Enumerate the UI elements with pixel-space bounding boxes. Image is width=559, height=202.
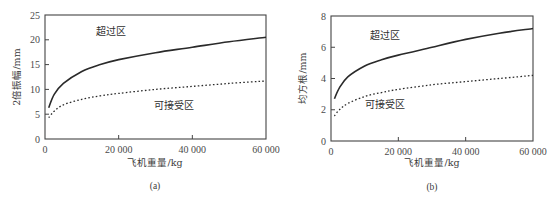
exceed-zone-label: 超过区: [370, 29, 400, 41]
y-tick-label: 5: [35, 109, 40, 120]
x-axis-label: 飞机重量/kg: [127, 157, 182, 168]
y-tick-label: 8: [321, 11, 326, 22]
caption: (a): [150, 181, 161, 192]
x-tick-label: 60 000: [252, 144, 280, 155]
y-axis-label: 均方根/mm: [297, 52, 308, 103]
y-tick-label: 0: [35, 134, 40, 145]
x-tick-label: 40 000: [179, 144, 207, 155]
solid-line-series: [49, 37, 266, 108]
x-tick-label: 60 000: [519, 146, 547, 157]
x-axis-label: 飞机重量/kg: [404, 157, 459, 168]
plot-area: 0510152025020 00040 00060 000超过区可接受区: [30, 10, 280, 156]
y-tick-label: 6: [321, 42, 326, 53]
y-tick-label: 15: [30, 59, 40, 70]
exceed-zone-label: 超过区: [96, 25, 126, 37]
acceptable-zone-label: 可接受区: [154, 99, 194, 111]
caption: (b): [426, 182, 437, 193]
x-tick-label: 0: [43, 144, 48, 155]
y-tick-label: 10: [30, 84, 40, 95]
acceptable-zone-label: 可接受区: [365, 98, 405, 110]
plot-frame: [45, 15, 266, 139]
chart-a: 2倍振幅/mm 飞机重量/kg (a) 0510152025020 00040 …: [11, 10, 280, 193]
x-tick-label: 0: [329, 146, 334, 157]
y-tick-label: 2: [321, 104, 326, 115]
x-tick-label: 40 000: [452, 146, 480, 157]
y-tick-label: 4: [321, 73, 326, 84]
y-tick-label: 20: [30, 34, 40, 45]
solid-line-series: [334, 29, 533, 99]
figure-canvas: 2倍振幅/mm 飞机重量/kg (a) 0510152025020 00040 …: [0, 0, 559, 202]
y-tick-label: 25: [30, 10, 40, 21]
x-tick-label: 20 000: [385, 146, 413, 157]
chart-b: 均方根/mm 飞机重量/kg (b) 02468020 00040 00060 …: [297, 11, 547, 194]
y-axis-label: 2倍振幅/mm: [11, 48, 22, 105]
y-tick-label: 0: [321, 136, 326, 147]
plot-area: 02468020 00040 00060 000超过区可接受区: [321, 11, 547, 158]
x-tick-label: 20 000: [105, 144, 133, 155]
